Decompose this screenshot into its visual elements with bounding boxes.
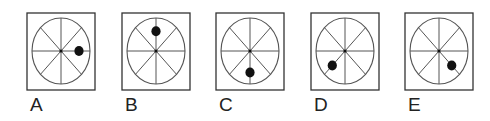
marker-dot bbox=[245, 67, 254, 77]
marker-dot bbox=[151, 26, 160, 36]
option-label: A bbox=[30, 94, 43, 116]
hub-dot bbox=[437, 49, 440, 52]
marker-dot bbox=[328, 60, 337, 70]
option-e[interactable]: E bbox=[403, 0, 490, 121]
option-label: D bbox=[314, 94, 328, 116]
option-label: B bbox=[125, 94, 138, 116]
hub-dot bbox=[154, 49, 157, 52]
option-d[interactable]: D bbox=[309, 0, 399, 121]
hub-dot bbox=[343, 49, 346, 52]
option-label: E bbox=[408, 94, 421, 116]
option-b[interactable]: B bbox=[120, 0, 210, 121]
hub-dot bbox=[248, 49, 251, 52]
marker-dot bbox=[74, 46, 83, 56]
marker-dot bbox=[447, 60, 456, 70]
option-label: C bbox=[219, 94, 233, 116]
hub-dot bbox=[59, 49, 62, 52]
option-a[interactable]: A bbox=[25, 0, 115, 121]
option-c[interactable]: C bbox=[214, 0, 304, 121]
